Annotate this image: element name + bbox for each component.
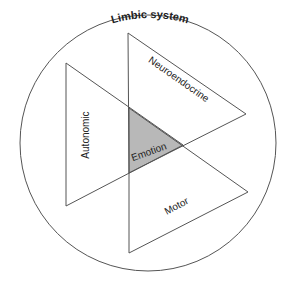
- autonomic-label: Autonomic: [80, 111, 91, 158]
- limbic-system-diagram: Limbic system Neuroendocrine Autonomic E…: [0, 0, 292, 286]
- neuroendocrine-label: Neuroendocrine: [147, 54, 212, 104]
- motor-label: Motor: [162, 195, 190, 217]
- diagram-title: Limbic system: [110, 8, 191, 26]
